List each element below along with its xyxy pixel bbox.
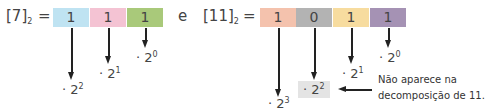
arrow-head-icon — [348, 56, 354, 64]
arrow-head-icon — [311, 72, 317, 80]
power-label-excluded: · 22 — [298, 81, 330, 98]
label-11-base-2: [11]2 — [203, 7, 239, 26]
arrow-down-icon — [314, 28, 316, 73]
annotation-note: Não aparece na decomposição de 11. — [378, 72, 485, 104]
arrow-down-icon — [278, 28, 280, 90]
arrow-head-icon — [385, 40, 391, 48]
digit-box: 1 — [370, 8, 406, 27]
power-label: · 22 — [62, 82, 84, 97]
arrow-down-icon — [388, 28, 390, 40]
arrow-down-icon — [71, 28, 73, 73]
digit-box: 0 — [296, 8, 332, 27]
arrow-down-icon — [145, 28, 147, 40]
connector-e: e — [178, 7, 187, 25]
power-label: · 20 — [379, 50, 401, 65]
note-line-1: Não aparece na — [378, 72, 485, 88]
arrow-down-icon — [108, 28, 110, 56]
digit-box: 1 — [90, 8, 126, 27]
equals-sign-left: = — [38, 7, 51, 25]
power-label: · 21 — [99, 66, 121, 81]
digit-box: 1 — [127, 8, 163, 27]
power-label: · 20 — [136, 50, 158, 65]
arrow-down-icon — [351, 28, 353, 56]
power-label: · 23 — [268, 96, 290, 111]
digit-box: 1 — [53, 8, 89, 27]
arrow-left-line — [345, 89, 372, 91]
digit-box: 1 — [333, 8, 369, 27]
arrow-head-icon — [105, 56, 111, 64]
note-line-2: decomposição de 11. — [378, 88, 485, 104]
label-7-base-2: [7]2 — [6, 7, 32, 26]
arrow-head-icon — [142, 40, 148, 48]
arrow-head-icon — [68, 72, 74, 80]
digit-box: 1 — [260, 8, 296, 27]
equals-sign-right: = — [243, 7, 256, 25]
power-label: · 21 — [342, 66, 364, 81]
